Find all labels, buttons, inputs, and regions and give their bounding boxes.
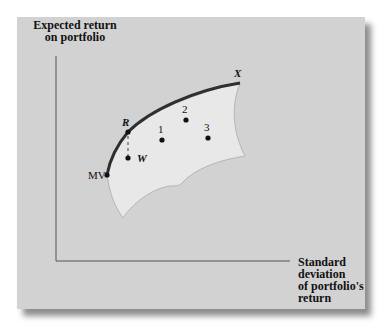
point-2 — [183, 117, 188, 122]
point-w — [125, 155, 130, 160]
label-x: X — [233, 67, 242, 79]
point-3 — [205, 135, 210, 140]
point-1 — [159, 137, 164, 142]
label-mv: MV — [88, 169, 106, 181]
label-1: 1 — [158, 123, 164, 135]
label-2: 2 — [182, 103, 188, 115]
point-r — [125, 129, 130, 134]
portfolio-diagram: MV R W 1 2 3 X — [0, 0, 392, 331]
label-r: R — [121, 116, 129, 128]
label-3: 3 — [204, 121, 210, 133]
label-w: W — [137, 152, 148, 164]
